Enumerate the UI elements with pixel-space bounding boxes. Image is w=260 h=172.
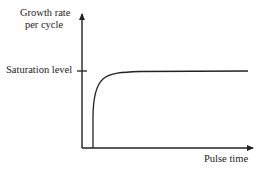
y-axis-label: Growth rate per cycle [20, 7, 68, 31]
growth-curve [93, 71, 248, 148]
saturation-level-label: Saturation level [6, 64, 72, 76]
y-axis-label-line1: Growth rate [20, 7, 68, 19]
y-axis-label-line2: per cycle [20, 19, 68, 31]
growth-rate-vs-pulse-time-diagram: Growth rate per cycle Saturation level P… [0, 0, 260, 172]
x-axis-label: Pulse time [204, 153, 248, 165]
